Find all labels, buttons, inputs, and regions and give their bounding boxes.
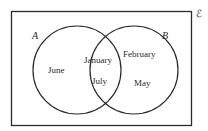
element-july: July — [92, 76, 108, 86]
element-february: February — [123, 49, 156, 59]
set-a-label: A — [31, 30, 39, 41]
element-may: May — [134, 78, 151, 88]
set-a-circle — [33, 26, 121, 114]
element-june: June — [48, 65, 65, 75]
venn-diagram: ℰ A B June January July February May — [0, 0, 208, 131]
set-b-label: B — [162, 30, 168, 41]
universal-set-symbol: ℰ — [196, 8, 202, 19]
element-january: January — [84, 55, 112, 65]
universal-set-rectangle — [12, 12, 192, 126]
